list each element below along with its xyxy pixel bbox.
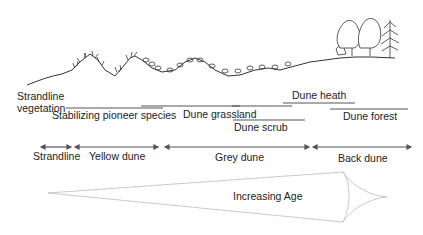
label-dune-scrub: Dune scrub [234,121,288,133]
trees-icon [336,18,399,58]
label-dune-heath: Dune heath [292,89,346,101]
label-dune-grassland: Dune grassland [183,108,257,120]
label-increasing-age: Increasing Age [233,190,302,202]
increasing-age-arrow-icon [48,172,387,222]
label-back-dune: Back dune [338,152,388,164]
label-stabilizing-pioneer-species: Stabilizing pioneer species [52,109,176,121]
dune-zone-arrows [41,145,411,149]
label-strandline-vegetation-line1: Strandline [17,90,65,102]
label-strandline: Strandline [33,150,80,162]
dune-profile-line [27,54,395,85]
label-yellow-dune: Yellow dune [89,150,145,162]
label-dune-forest: Dune forest [343,110,397,122]
label-grey-dune: Grey dune [215,151,264,163]
